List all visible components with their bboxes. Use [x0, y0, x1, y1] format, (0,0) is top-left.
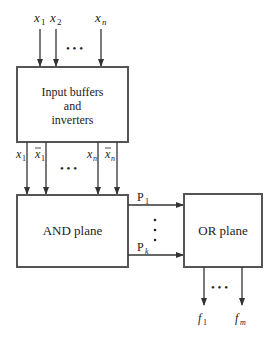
buffer-label-line3: inverters — [52, 113, 94, 127]
svg-text:x: x — [104, 147, 111, 161]
and-plane-label: AND plane — [43, 223, 103, 238]
vertical-ellipsis-dot — [154, 239, 157, 242]
vertical-ellipsis-dot — [154, 219, 157, 222]
svg-text:n: n — [93, 154, 97, 163]
input-x2: x 2 — [49, 10, 62, 66]
vertical-ellipsis-dot — [154, 229, 157, 232]
svg-text:1: 1 — [41, 154, 45, 163]
svg-text:x: x — [49, 10, 56, 25]
pla-block-diagram: x 1 x 2 x n • • • Input buffers and inve… — [0, 0, 275, 340]
svg-text:m: m — [240, 318, 246, 327]
literal-xn: x n — [86, 142, 98, 194]
input-ellipsis: • • • — [66, 42, 83, 54]
buffer-label-line2: and — [64, 99, 81, 113]
or-plane-label: OR plane — [198, 223, 248, 238]
output-ellipsis: • • • — [211, 281, 228, 293]
product-p1: P 1 — [128, 190, 183, 206]
svg-text:1: 1 — [41, 17, 46, 27]
svg-text:x: x — [15, 147, 22, 161]
product-pk: P k — [128, 240, 183, 256]
svg-text:P: P — [137, 190, 144, 204]
svg-text:x: x — [94, 10, 101, 25]
input-x1: x 1 — [33, 10, 46, 66]
literal-xn-bar: x n — [104, 142, 117, 194]
svg-text:x: x — [33, 10, 40, 25]
output-f1: f 1 — [198, 267, 207, 327]
buffer-label-line1: Input buffers — [41, 85, 103, 99]
svg-text:2: 2 — [57, 17, 62, 27]
svg-text:x: x — [34, 147, 41, 161]
literal-x1: x 1 — [15, 142, 27, 194]
svg-text:P: P — [137, 240, 144, 254]
svg-text:1: 1 — [203, 318, 207, 327]
input-xn: x n — [94, 10, 107, 66]
svg-text:n: n — [111, 154, 115, 163]
svg-text:x: x — [86, 147, 93, 161]
svg-text:n: n — [102, 17, 107, 27]
literal-ellipsis: • • • — [60, 162, 77, 174]
svg-text:1: 1 — [22, 154, 26, 163]
output-fm: f m — [235, 267, 246, 327]
literal-x1-bar: x 1 — [34, 142, 46, 194]
